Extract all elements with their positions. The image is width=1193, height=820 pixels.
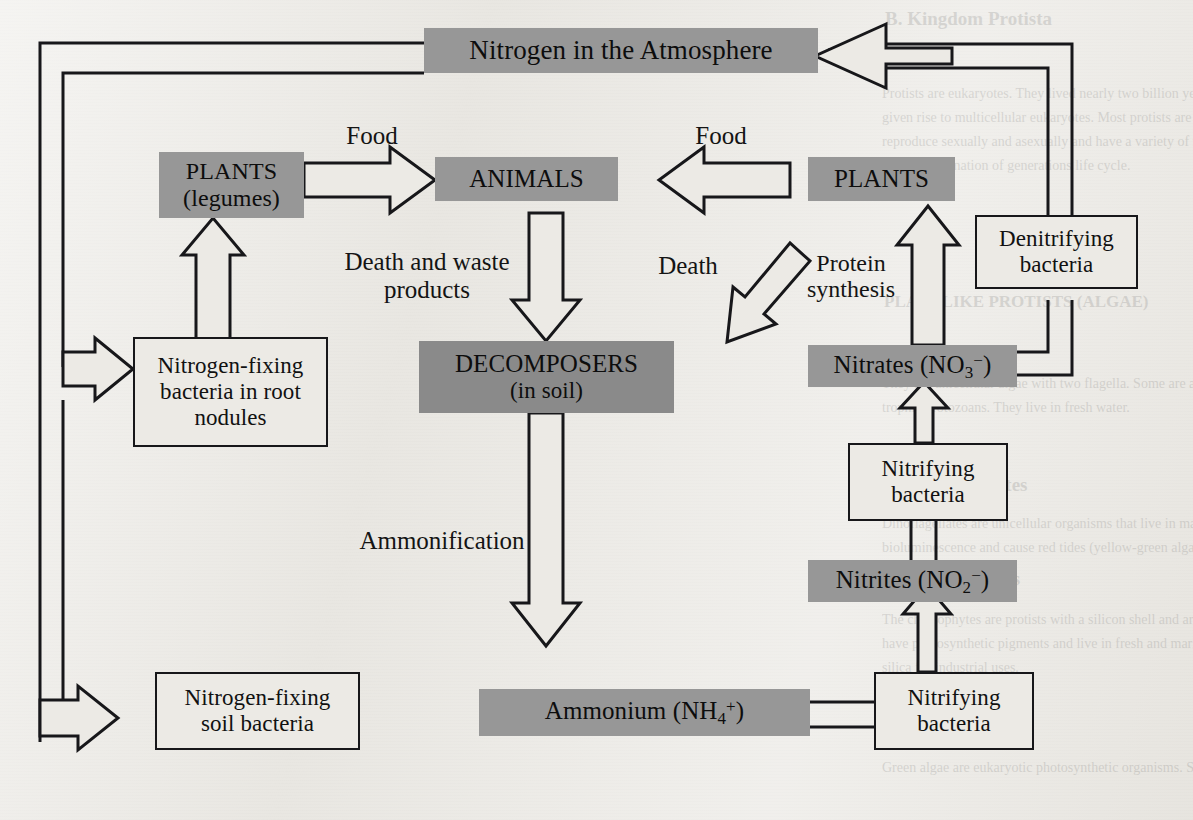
node-atmosphere-label: Nitrogen in the Atmosphere: [463, 35, 778, 65]
node-soil-bacteria-line2: soil bacteria: [201, 711, 314, 737]
node-nitrogen-fixing-root-nodules[interactable]: Nitrogen-fixing bacteria in root nodules: [133, 337, 328, 447]
node-nitrifying-lower-line1: Nitrifying: [908, 685, 1001, 711]
label-protein-synthesis-line2: synthesis: [796, 276, 906, 302]
node-decomposers[interactable]: DECOMPOSERS (in soil): [419, 341, 674, 413]
node-root-nodules-line3: nodules: [194, 405, 266, 431]
label-death: Death: [638, 252, 738, 280]
arrow-food-plants-right-to-animals: [659, 147, 790, 213]
node-nitrifying-lower-line2: bacteria: [917, 711, 991, 737]
node-ammonium[interactable]: Ammonium (NH4+): [479, 689, 810, 736]
node-plants-legumes-line1: PLANTS: [186, 158, 277, 185]
node-plants-label: PLANTS: [828, 165, 935, 193]
wire-nitrates-to-denitrifying-inner: [1017, 300, 1048, 352]
node-decomposers-line2: (in soil): [510, 378, 583, 404]
node-nitrogen-in-atmosphere[interactable]: Nitrogen in the Atmosphere: [424, 28, 818, 73]
label-death-waste-line1: Death and waste: [312, 248, 542, 276]
node-denitrifying-line1: Denitrifying: [999, 226, 1114, 252]
node-nitrates[interactable]: Nitrates (NO3−): [808, 345, 1017, 387]
node-root-nodules-line2: bacteria in root: [160, 379, 301, 405]
node-decomposers-line1: DECOMPOSERS: [455, 350, 638, 378]
arrow-food-plants-to-animals: [304, 147, 435, 213]
node-nitrogen-fixing-soil-bacteria[interactable]: Nitrogen-fixing soil bacteria: [155, 672, 360, 750]
node-soil-bacteria-line1: Nitrogen-fixing: [185, 685, 331, 711]
node-plants-legumes[interactable]: PLANTS (legumes): [159, 152, 304, 218]
node-denitrifying-line2: bacteria: [1020, 252, 1094, 278]
arrowhead-into-atmosphere: [815, 24, 952, 88]
label-food-left: Food: [322, 122, 422, 150]
node-plants[interactable]: PLANTS: [808, 157, 955, 201]
label-protein-synthesis-line1: Protein: [796, 250, 906, 276]
wire-nitrates-to-denitrifying-outer: [1017, 300, 1072, 375]
arrow-root-nodules-to-plants-legumes: [182, 218, 244, 340]
arrow-to-root-nodule-bacteria: [63, 338, 133, 400]
nitrogen-cycle-diagram: Nitrogen in the Atmosphere PLANTS (legum…: [0, 0, 1193, 820]
node-nitrifying-upper-line1: Nitrifying: [882, 456, 975, 482]
label-death-waste-line2: products: [312, 276, 542, 304]
label-food-right: Food: [671, 122, 771, 150]
node-root-nodules-line1: Nitrogen-fixing: [158, 353, 304, 379]
label-ammonification: Ammonification: [332, 527, 552, 555]
arrow-to-soil-bacteria: [40, 686, 118, 750]
arrow-nitrifying-upper-to-nitrates: [900, 382, 948, 443]
label-death-and-waste-products: Death and waste products: [312, 248, 542, 303]
node-nitrifying-upper-line2: bacteria: [891, 482, 965, 508]
node-plants-legumes-line2: (legumes): [183, 185, 280, 212]
label-protein-synthesis: Protein synthesis: [796, 250, 906, 303]
node-nitrates-label: Nitrates (NO3−): [828, 351, 998, 382]
arrow-protein-synthesis-nitrates-to-plants: [897, 206, 959, 345]
node-ammonium-label: Ammonium (NH4+): [539, 697, 750, 728]
node-nitrifying-bacteria-upper[interactable]: Nitrifying bacteria: [848, 443, 1008, 521]
node-nitrifying-bacteria-lower[interactable]: Nitrifying bacteria: [874, 672, 1034, 750]
node-denitrifying-bacteria[interactable]: Denitrifying bacteria: [975, 215, 1138, 289]
node-nitrites-label: Nitrites (NO2−): [830, 566, 996, 597]
node-animals[interactable]: ANIMALS: [435, 157, 618, 201]
wire-atmosphere-to-left-inner-upper: [63, 73, 424, 367]
node-nitrites[interactable]: Nitrites (NO2−): [808, 560, 1017, 602]
node-animals-label: ANIMALS: [463, 165, 590, 193]
